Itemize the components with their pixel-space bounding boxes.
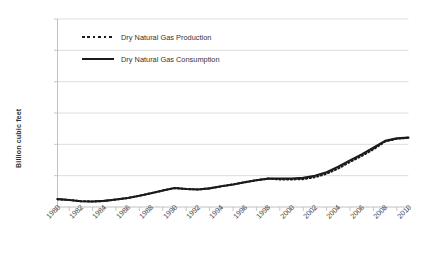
x-axis-tick-label: 1984 [91,204,108,221]
x-axis-tick-label: 1990 [162,204,179,221]
x-axis-tick-label: 1986 [115,204,132,221]
x-axis-tick-label: 1996 [232,204,249,221]
x-axis-tick-label: 2004 [325,204,342,221]
legend-item-consumption: Dry Natural Gas Consumption [80,52,280,66]
chart-legend: Dry Natural Gas Production Dry Natural G… [80,30,280,74]
x-axis-tick-label: 1988 [138,204,155,221]
legend-label-production: Dry Natural Gas Production [121,33,211,42]
legend-item-production: Dry Natural Gas Production [80,30,280,44]
x-axis-tick-label: 1998 [255,204,272,221]
x-axis-tick-label: 1982 [68,204,85,221]
chart-container: Billion cubic feet 6,0005,0004,0003,0002… [0,0,423,253]
x-axis-tick-label: 1992 [185,204,202,221]
solid-line-key-icon [80,54,116,64]
x-axis-tick-label: 1994 [208,204,225,221]
x-axis-tick-label: 2000 [279,204,296,221]
legend-label-consumption: Dry Natural Gas Consumption [121,55,220,64]
x-axis-tick-label: 1980 [45,204,62,221]
x-axis-tick-label: 2002 [302,204,319,221]
x-axis-tick-label: 2008 [372,204,389,221]
x-axis-tick-label: 2010 [396,204,413,221]
x-axis-tick-label: 2006 [349,204,366,221]
dotted-line-key-icon [80,32,116,42]
